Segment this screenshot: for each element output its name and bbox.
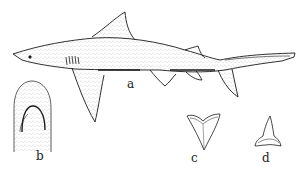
panel-c-upper-tooth-drawing [187,114,220,150]
panel-label-a: a [127,78,134,90]
panel-a-shark-drawing [13,12,295,122]
illustration-svg [0,0,306,169]
panel-label-b: b [36,150,44,162]
panel-label-c: c [191,152,198,164]
panel-d-lower-tooth-drawing [255,116,281,146]
shark-illustration-figure: a b c d [0,0,306,169]
panel-b-snout-drawing [14,81,51,152]
panel-label-d: d [262,152,270,164]
